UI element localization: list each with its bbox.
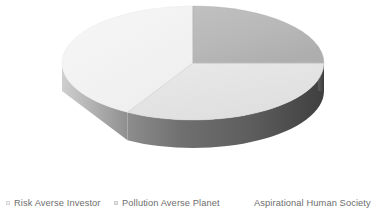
chart-legend: Risk Averse Investor Pollution Averse Pl… (0, 188, 376, 219)
legend-label: Aspirational Human Society (254, 198, 371, 209)
pie-chart-figure: Risk Averse Investor Pollution Averse Pl… (0, 0, 376, 219)
legend-label: Pollution Averse Planet (122, 198, 220, 209)
legend-label: Risk Averse Investor (14, 198, 101, 209)
pie-chart-canvas (0, 0, 376, 186)
legend-swatch-icon (114, 201, 118, 205)
legend-item-risk-averse-investor[interactable]: Risk Averse Investor (6, 196, 101, 210)
legend-swatch-icon (6, 201, 10, 205)
pie-slice-aspirational-human-society (193, 6, 324, 63)
legend-swatch-icon (246, 201, 250, 205)
legend-item-aspirational-human-society[interactable]: Aspirational Human Society (246, 196, 371, 210)
legend-item-pollution-averse-planet[interactable]: Pollution Averse Planet (114, 196, 220, 210)
